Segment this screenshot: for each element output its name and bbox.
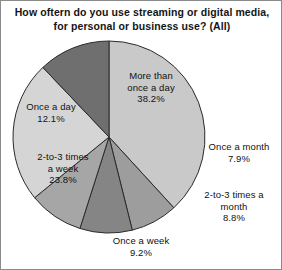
slice-label-2-to-3-times-a-week: 2-to-3 times a week 23.8% <box>17 151 109 186</box>
pie-chart-svg <box>1 1 282 270</box>
slice-label-2-to-3-times-a-month: 2-to-3 times a month 8.8% <box>187 189 281 224</box>
slice-label-more-than-once-a-day: More than once a day 38.2% <box>109 70 193 105</box>
slice-label-once-a-week: Once a week 9.2% <box>93 235 189 258</box>
slice-label-once-a-day: Once a day 12.1% <box>11 101 91 124</box>
slice-label-once-a-month: Once a month 7.9% <box>197 141 281 164</box>
pie-chart-figure: How oftern do you use streaming or digit… <box>0 0 282 270</box>
